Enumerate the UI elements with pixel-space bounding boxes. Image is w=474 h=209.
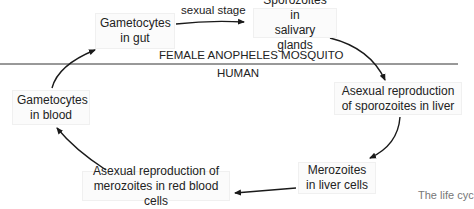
node-text: Gametocytes bbox=[17, 93, 85, 108]
node-text: in blood bbox=[17, 108, 85, 123]
node-merozoites-liver: Merozoites in liver cells bbox=[298, 162, 376, 194]
node-sporozoites-glands: Sporozoites in salivary glands bbox=[253, 8, 337, 38]
edge-label-sexual-stage: sexual stage bbox=[181, 4, 246, 16]
region-label-human: HUMAN bbox=[217, 67, 259, 79]
node-text: in gut bbox=[100, 31, 170, 46]
node-asexual-liver: Asexual reproduction of sporozoites in l… bbox=[334, 82, 462, 115]
node-text: merozoites in red blood cells bbox=[87, 179, 225, 209]
node-gametocytes-gut: Gametocytes in gut bbox=[95, 13, 175, 49]
node-text: in liver cells bbox=[303, 178, 371, 193]
node-text: Sporozoites in bbox=[258, 0, 332, 23]
figure-caption: The life cyc bbox=[418, 189, 474, 201]
arrow-to-gut bbox=[52, 50, 95, 88]
node-text: Merozoites bbox=[303, 163, 371, 178]
node-asexual-rbc: Asexual reproduction of merozoites in re… bbox=[82, 171, 230, 201]
arrow-sexual-stage bbox=[176, 21, 244, 24]
node-gametocytes-blood: Gametocytes in blood bbox=[12, 90, 90, 125]
arrow-to-rbc bbox=[235, 188, 296, 193]
node-text: Asexual reproduction of bbox=[87, 164, 225, 179]
node-text: Gametocytes bbox=[100, 16, 170, 31]
arrow-to-merozoites bbox=[370, 117, 400, 158]
node-text: Asexual reproduction bbox=[339, 84, 457, 99]
region-label-mosquito: FEMALE ANOPHELES MOSQUITO bbox=[159, 49, 343, 61]
node-text: of sporozoites in liver bbox=[339, 99, 457, 114]
